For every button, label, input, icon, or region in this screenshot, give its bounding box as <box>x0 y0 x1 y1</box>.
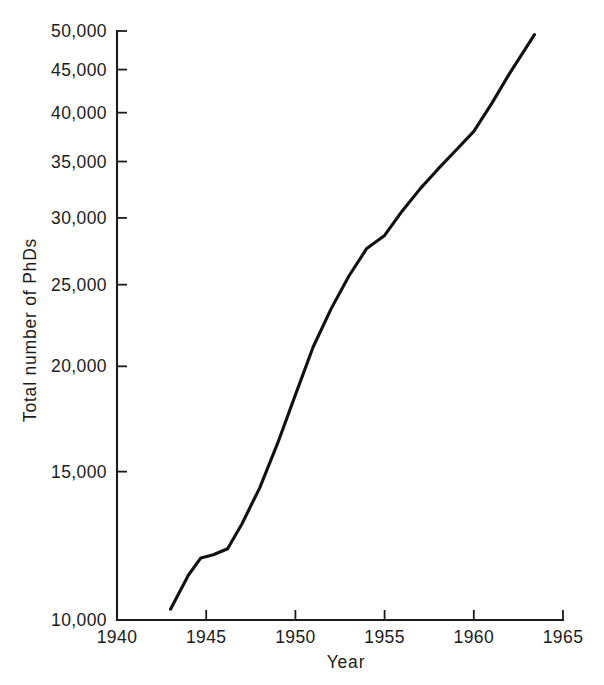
x-tick-label-1965: 1965 <box>543 627 584 647</box>
y-tick-label-15000: 15,000 <box>51 462 107 482</box>
x-axis-title: Year <box>327 652 366 672</box>
x-tick-label-1945: 1945 <box>186 627 227 647</box>
x-tick-label-1950: 1950 <box>275 627 316 647</box>
y-tick-label-50000: 50,000 <box>51 21 107 41</box>
y-tick-label-20000: 20,000 <box>51 356 107 376</box>
chart-figure: 10,00015,00020,00025,00030,00035,00040,0… <box>0 0 604 685</box>
y-tick-label-25000: 25,000 <box>51 275 107 295</box>
phd-growth-line-chart: 10,00015,00020,00025,00030,00035,00040,0… <box>0 0 604 685</box>
y-tick-label-30000: 30,000 <box>51 208 107 228</box>
y-tick-label-45000: 45,000 <box>51 60 107 80</box>
y-axis-tick-labels: 10,00015,00020,00025,00030,00035,00040,0… <box>51 21 107 630</box>
x-tick-label-1955: 1955 <box>364 627 405 647</box>
y-tick-label-35000: 35,000 <box>51 152 107 172</box>
y-axis-title: Total number of PhDs <box>20 238 40 422</box>
x-axis-ticks <box>206 610 563 620</box>
x-tick-label-1960: 1960 <box>454 627 495 647</box>
x-axis-tick-labels: 194019451950195519601965 <box>97 627 584 647</box>
phd-total-line-series <box>171 35 535 610</box>
y-axis-ticks <box>117 31 127 472</box>
x-tick-label-1940: 1940 <box>97 627 138 647</box>
y-tick-label-40000: 40,000 <box>51 103 107 123</box>
